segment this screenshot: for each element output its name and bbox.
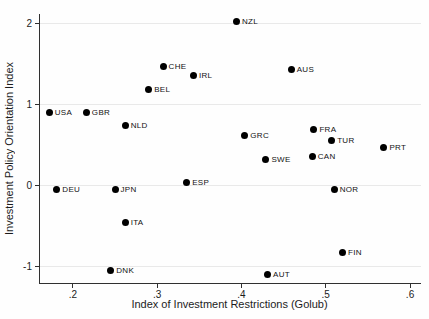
point-deu <box>53 186 60 193</box>
x-axis-title: Index of Investment Restrictions (Golub) <box>39 298 420 310</box>
point-label-grc: GRC <box>250 132 269 140</box>
scatter-chart-figure: 210-1.2.3.4.5.6USADEUGBRDNKJPNNLDITABELC… <box>0 0 429 319</box>
point-label-esp: ESP <box>192 179 209 187</box>
point-jpn <box>112 186 119 193</box>
y-axis-tick <box>35 185 39 186</box>
plot-area: 210-1.2.3.4.5.6USADEUGBRDNKJPNNLDITABELC… <box>39 14 421 284</box>
point-label-fra: FRA <box>319 126 336 134</box>
point-label-aut: AUT <box>273 271 290 279</box>
point-aus <box>288 66 295 73</box>
y-tick-label: 0 <box>26 181 32 191</box>
y-tick-label: -1 <box>23 262 32 272</box>
point-che <box>160 63 167 70</box>
y-axis-title: Investment Policy Orientation Index <box>3 14 15 283</box>
x-axis-tick <box>157 284 158 288</box>
gridline-y-1 <box>40 104 421 105</box>
y-axis-tick <box>35 104 39 105</box>
point-aut <box>264 271 271 278</box>
point-label-jpn: JPN <box>121 186 137 194</box>
point-label-tur: TUR <box>337 137 354 145</box>
point-swe <box>262 156 269 163</box>
x-axis-tick <box>241 284 242 288</box>
point-nld <box>122 122 129 129</box>
point-label-dnk: DNK <box>116 267 134 275</box>
y-axis-tick <box>35 266 39 267</box>
point-ita <box>122 219 129 226</box>
point-fin <box>339 249 346 256</box>
point-usa <box>46 109 53 116</box>
point-tur <box>328 137 335 144</box>
gridline-y-0 <box>40 185 421 186</box>
y-axis-tick <box>35 23 39 24</box>
gridline-y-2 <box>40 23 421 24</box>
point-label-deu: DEU <box>62 186 80 194</box>
point-label-prt: PRT <box>389 144 406 152</box>
point-label-ita: ITA <box>131 219 144 227</box>
point-nor <box>331 186 338 193</box>
x-axis-tick <box>72 284 73 288</box>
point-bel <box>145 86 152 93</box>
point-label-gbr: GBR <box>92 109 110 117</box>
point-label-aus: AUS <box>297 66 314 74</box>
point-nzl <box>233 18 240 25</box>
point-fra <box>310 126 317 133</box>
x-axis-tick <box>410 284 411 288</box>
point-label-usa: USA <box>55 109 72 117</box>
point-label-fin: FIN <box>348 249 362 257</box>
point-irl <box>190 72 197 79</box>
point-label-irl: IRL <box>199 72 212 80</box>
point-can <box>309 153 316 160</box>
point-label-bel: BEL <box>154 86 170 94</box>
y-tick-label: 1 <box>26 100 32 110</box>
point-dnk <box>107 267 114 274</box>
point-label-can: CAN <box>318 153 336 161</box>
y-tick-label: 2 <box>26 19 32 29</box>
point-label-nld: NLD <box>131 122 148 130</box>
x-axis-tick <box>325 284 326 288</box>
point-grc <box>241 132 248 139</box>
point-prt <box>380 144 387 151</box>
gridline-y--1 <box>40 266 421 267</box>
point-label-swe: SWE <box>271 156 290 164</box>
point-gbr <box>83 109 90 116</box>
point-label-nzl: NZL <box>242 18 258 26</box>
point-label-nor: NOR <box>340 186 359 194</box>
point-label-che: CHE <box>169 63 187 71</box>
